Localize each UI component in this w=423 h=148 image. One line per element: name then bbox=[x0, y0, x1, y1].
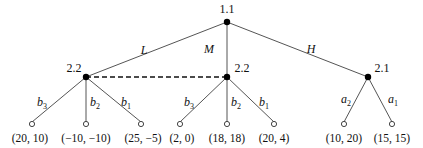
payoff-label: (20, 4) bbox=[259, 132, 290, 145]
action-M-label: M bbox=[203, 42, 215, 56]
mid-action-b2-label: b2 bbox=[231, 95, 241, 111]
payoff-label: (18, 18) bbox=[209, 132, 246, 145]
terminal-node bbox=[138, 121, 143, 126]
terminal-node bbox=[177, 121, 182, 126]
terminal-node bbox=[341, 121, 346, 126]
terminal-node bbox=[389, 121, 394, 126]
payoff-label: (2, 0) bbox=[170, 132, 195, 145]
action-H-label: H bbox=[306, 42, 317, 56]
root-node bbox=[224, 19, 230, 25]
payoff-label: (25, −5) bbox=[124, 132, 161, 145]
payoff-label: (15, 15) bbox=[374, 132, 411, 145]
payoff-label: (10, 20) bbox=[326, 132, 363, 145]
left-action-b1-label: b1 bbox=[121, 95, 131, 111]
right-node-label: 2.1 bbox=[375, 61, 390, 75]
left-action-b2-label: b2 bbox=[90, 95, 100, 111]
right-action-a2-label: a2 bbox=[341, 92, 351, 108]
right-node bbox=[365, 74, 371, 80]
payoff-label: (−10, −10) bbox=[61, 132, 111, 145]
payoff-label: (20, 10) bbox=[12, 132, 49, 145]
terminal-node bbox=[83, 121, 88, 126]
left-node bbox=[83, 74, 89, 80]
mid-action-b1-label: b1 bbox=[259, 95, 269, 111]
action-L-label: L bbox=[140, 43, 148, 57]
middle-node bbox=[224, 74, 230, 80]
terminal-node bbox=[224, 121, 229, 126]
terminal-node bbox=[271, 121, 276, 126]
right-action-a1-label: a1 bbox=[388, 92, 398, 108]
terminal-node bbox=[29, 121, 34, 126]
left-action-b3-label: b3 bbox=[37, 95, 47, 111]
game-tree: 1.1 2.2 2.2 2.1 L M H b3 b2 b1 b3 b2 b1 … bbox=[0, 0, 423, 148]
left-node-label: 2.2 bbox=[67, 61, 82, 75]
middle-node-label: 2.2 bbox=[235, 61, 250, 75]
root-node-label: 1.1 bbox=[220, 2, 235, 16]
mid-action-b3-label: b3 bbox=[184, 95, 194, 111]
